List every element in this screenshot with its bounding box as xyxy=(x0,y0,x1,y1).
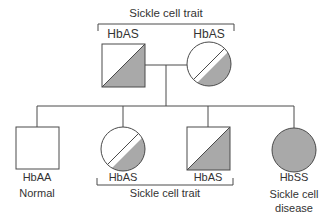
child-4-symbol xyxy=(272,128,316,172)
child-4-label-line1: Sickle cell xyxy=(264,188,324,201)
child-4-label-line2: disease xyxy=(264,202,324,215)
children-bracket-label: Sickle cell trait xyxy=(115,187,215,200)
child-1-symbol xyxy=(16,127,59,169)
parents-bracket-label: Sickle cell trait xyxy=(116,7,216,20)
child-1-label: Normal xyxy=(12,187,62,200)
child-4-genotype: HbSS xyxy=(274,171,314,184)
child-1-genotype: HbAA xyxy=(17,171,57,184)
child-3-symbol xyxy=(187,127,230,170)
father-symbol xyxy=(102,44,145,87)
father-genotype: HbAS xyxy=(103,28,143,41)
mother-symbol xyxy=(180,40,240,100)
mother-genotype: HbAS xyxy=(189,28,229,41)
child-2-genotype: HbAS xyxy=(103,171,143,184)
child-3-genotype: HbAS xyxy=(188,171,228,184)
